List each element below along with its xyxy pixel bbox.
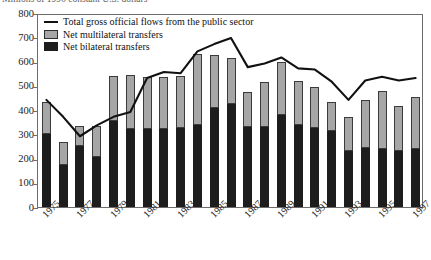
x-axis-tick-label: 1993 [342, 198, 364, 220]
x-axis: 1975197719791981198319851987198919911993… [0, 0, 431, 260]
x-axis-tick-label: 1995 [376, 198, 398, 220]
x-axis-tick-label: 1985 [208, 198, 230, 220]
chart-container: Millions of 1996 constant U.S. dollars 8… [0, 0, 431, 260]
x-axis-tick-label: 1997 [410, 198, 431, 220]
x-axis-tick-label: 1977 [74, 198, 96, 220]
x-axis-tick-label: 1991 [309, 198, 331, 220]
x-axis-tick-label: 1981 [141, 198, 163, 220]
x-axis-tick-label: 1975 [40, 198, 62, 220]
x-axis-tick-label: 1979 [108, 198, 130, 220]
x-axis-tick-label: 1989 [275, 198, 297, 220]
x-axis-tick-label: 1987 [242, 198, 264, 220]
x-axis-tick-label: 1983 [175, 198, 197, 220]
